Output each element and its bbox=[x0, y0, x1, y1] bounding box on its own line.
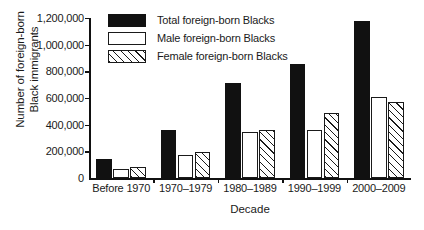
bar-female bbox=[324, 113, 340, 178]
x-axis-tick-labels: Before 19701970–19791980–19891990–199920… bbox=[89, 182, 411, 198]
bar-male bbox=[178, 155, 194, 178]
legend-swatch-total bbox=[108, 14, 146, 27]
bar-female bbox=[130, 167, 146, 178]
legend-swatch-female bbox=[108, 50, 146, 63]
x-axis-tick-label: Before 1970 bbox=[92, 182, 150, 195]
x-axis-line bbox=[89, 178, 411, 180]
y-axis-tick-label: 0 bbox=[78, 173, 84, 184]
chart-legend: Total foreign-born BlacksMale foreign-bo… bbox=[108, 12, 288, 66]
legend-label: Total foreign-born Blacks bbox=[157, 14, 274, 26]
legend-entry: Male foreign-born Blacks bbox=[108, 30, 288, 47]
legend-entry: Total foreign-born Blacks bbox=[108, 12, 288, 29]
y-axis-tick-label: 1,000,000 bbox=[37, 39, 84, 50]
bar-total bbox=[290, 64, 306, 178]
legend-entry: Female foreign-born Blacks bbox=[108, 48, 288, 65]
y-axis-tick-label: 200,000 bbox=[46, 146, 84, 157]
y-axis-title-line-1: Number of foreign-born bbox=[14, 0, 28, 155]
bar-female bbox=[388, 102, 404, 178]
bar-total bbox=[96, 159, 112, 178]
bar-male bbox=[113, 169, 129, 178]
y-axis-tick-label: 600,000 bbox=[46, 93, 84, 104]
bar-male bbox=[242, 132, 258, 178]
bar-female bbox=[259, 130, 275, 178]
x-axis-tick-label: 1980–1989 bbox=[223, 182, 276, 195]
bar-female bbox=[195, 152, 211, 178]
legend-swatch-male bbox=[108, 32, 146, 45]
bar-total bbox=[225, 83, 241, 178]
bar-total bbox=[354, 21, 370, 178]
bar-group bbox=[282, 18, 346, 178]
bar-male bbox=[307, 130, 323, 178]
x-axis-tick-label: 2000–2009 bbox=[352, 182, 405, 195]
y-axis-tick-label: 800,000 bbox=[46, 66, 84, 77]
x-axis-tick-label: 1970–1979 bbox=[159, 182, 212, 195]
y-axis-tick-label: 1,200,000 bbox=[37, 13, 84, 24]
legend-label: Male foreign-born Blacks bbox=[157, 32, 275, 44]
bar-total bbox=[161, 130, 177, 178]
bar-male bbox=[371, 97, 387, 178]
y-axis-tick-labels: 0200,000400,000600,000800,0001,000,0001,… bbox=[26, 0, 84, 230]
y-axis-tick-label: 400,000 bbox=[46, 119, 84, 130]
bar-chart: Number of foreign-born Black immigrants … bbox=[0, 0, 424, 230]
bar-group bbox=[347, 18, 411, 178]
legend-label: Female foreign-born Blacks bbox=[157, 50, 288, 62]
x-axis-title: Decade bbox=[89, 203, 411, 215]
x-axis-tick-label: 1990–1999 bbox=[288, 182, 341, 195]
